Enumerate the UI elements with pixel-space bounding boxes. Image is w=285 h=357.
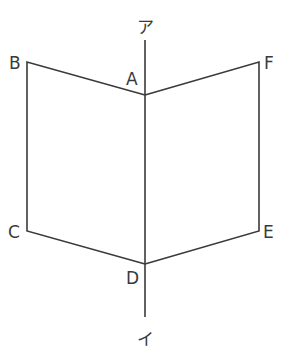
axis-bottom-label: イ [137, 329, 154, 349]
point-label-d: D [126, 268, 139, 288]
axis-top-label: ア [137, 17, 154, 37]
folded-figure-diagram: ア イ A B F C D E [0, 0, 285, 357]
face-afed [145, 62, 259, 264]
face-abcd [27, 62, 145, 264]
point-label-b: B [9, 53, 21, 73]
point-label-a: A [126, 69, 138, 89]
point-label-e: E [263, 222, 274, 242]
point-label-f: F [264, 53, 274, 73]
point-label-c: C [8, 222, 20, 242]
